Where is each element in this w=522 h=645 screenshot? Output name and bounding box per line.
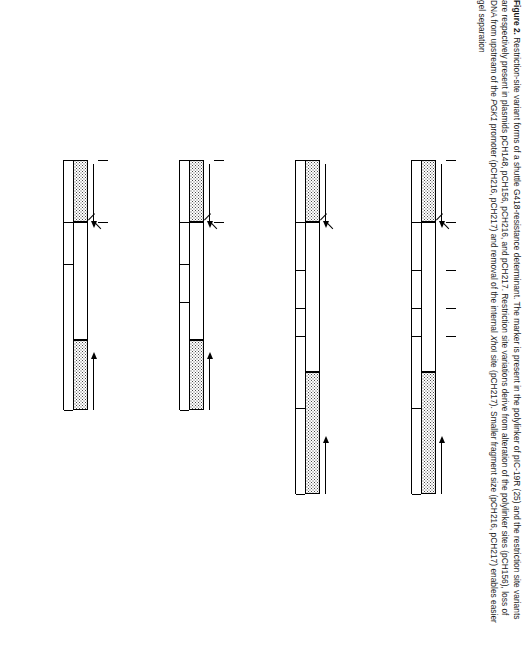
promoter-segment-bar <box>73 160 88 222</box>
restriction-site-tick <box>412 408 421 409</box>
segment-delimiter <box>446 270 456 271</box>
promoter-direction-arrow-right <box>441 442 442 494</box>
polylinker-site-label <box>339 82 347 156</box>
promoter-direction-arrow-right <box>325 442 326 494</box>
restriction-site-tick <box>412 308 421 309</box>
promoter-direction-arrow-left <box>325 164 326 222</box>
caption-run: Xho <box>489 335 499 350</box>
downstream-site-label <box>455 498 463 568</box>
polylinker-site-label <box>364 82 372 156</box>
polylinker-site-label <box>330 82 338 156</box>
map-baseline <box>411 160 412 494</box>
promoter-direction-arrow-right <box>209 358 210 410</box>
downstream-site-label <box>73 414 81 484</box>
polylinker-site-label <box>123 82 131 156</box>
downstream-site-list <box>421 498 463 568</box>
map-baseline <box>179 160 180 410</box>
caption-run: promoter (pCH216, pCH217) and removal of… <box>489 122 499 336</box>
downstream-site-label <box>107 414 115 484</box>
downstream-site-label <box>322 498 330 568</box>
map-baseline <box>63 160 64 410</box>
construct-row <box>254 0 350 645</box>
polylinker-site-label <box>73 82 81 156</box>
downstream-site-label <box>421 498 429 568</box>
polylinker-site-label <box>347 82 355 156</box>
downstream-promoter-bar <box>305 372 320 494</box>
polylinker-site-label <box>429 82 437 156</box>
polylinker-site-label <box>223 82 231 156</box>
polylinker-site-label <box>313 82 321 156</box>
caption-run: PGK1 <box>489 99 499 121</box>
restriction-site-tick <box>64 410 73 411</box>
gene-segment-bar <box>305 222 320 372</box>
downstream-site-label <box>223 414 231 484</box>
downstream-site-list <box>73 414 115 484</box>
polylinker-site-label <box>305 82 313 156</box>
polylinker-site-label <box>421 82 429 156</box>
restriction-site-tick <box>296 160 305 161</box>
segment-delimiter <box>446 336 456 337</box>
segment-delimiter <box>214 222 224 223</box>
promoter-direction-arrow-right <box>93 358 94 410</box>
gene-segment-bar <box>189 222 204 340</box>
segment-delimiter <box>446 222 456 223</box>
downstream-site-label <box>81 414 89 484</box>
downstream-site-label <box>446 498 454 568</box>
polylinker-site-label <box>81 82 89 156</box>
restriction-site-tick <box>412 160 421 161</box>
polylinker-site-label <box>438 82 446 156</box>
restriction-site-tick <box>64 264 73 265</box>
polylinker-site-label <box>455 82 463 156</box>
restriction-site-tick <box>412 336 421 337</box>
polylinker-site-list <box>305 82 389 156</box>
polylinker-site-label <box>446 82 454 156</box>
restriction-site-tick <box>296 270 305 271</box>
polylinker-site-label <box>189 82 197 156</box>
restriction-site-tick <box>180 160 189 161</box>
segment-delimiter <box>98 222 108 223</box>
restriction-site-tick <box>64 222 73 223</box>
polylinker-site-label <box>98 82 106 156</box>
restriction-site-tick <box>296 308 305 309</box>
polylinker-site-label <box>355 82 363 156</box>
restriction-site-tick <box>296 336 305 337</box>
polylinker-site-label <box>197 82 205 156</box>
restriction-site-tick <box>180 264 189 265</box>
polylinker-site-label <box>132 82 140 156</box>
polylinker-site-label <box>206 82 214 156</box>
polylinker-site-label <box>90 82 98 156</box>
polylinker-site-list <box>73 82 140 156</box>
promoter-segment-bar <box>189 160 204 222</box>
polylinker-site-label <box>214 82 222 156</box>
promoter-direction-arrow-left <box>441 164 442 222</box>
gene-segment-bar <box>73 222 88 340</box>
downstream-site-label <box>90 414 98 484</box>
promoter-direction-arrow-left <box>209 164 210 222</box>
downstream-promoter-bar <box>73 340 88 410</box>
restriction-site-tick <box>180 222 189 223</box>
downstream-site-label <box>197 414 205 484</box>
restriction-site-tick <box>64 160 73 161</box>
restriction-site-tick <box>180 302 189 303</box>
polylinker-site-label <box>107 82 115 156</box>
downstream-site-label <box>313 498 321 568</box>
restriction-site-tick <box>296 222 305 223</box>
promoter-direction-arrow-left <box>93 164 94 222</box>
downstream-promoter-bar <box>189 340 204 410</box>
construct-row <box>22 0 118 645</box>
construct-row <box>138 0 234 645</box>
downstream-site-label <box>98 414 106 484</box>
polylinker-site-label <box>248 82 256 156</box>
segment-delimiter <box>446 308 456 309</box>
downstream-site-label <box>189 414 197 484</box>
segment-delimiter <box>214 160 224 161</box>
polylinker-site-label <box>115 82 123 156</box>
downstream-site-label <box>438 498 446 568</box>
restriction-site-tick <box>412 222 421 223</box>
figure-caption-frame: Figure 2. Restriction-site variant forms… <box>466 0 522 645</box>
polylinker-site-label <box>231 82 239 156</box>
polylinker-site-label <box>372 82 380 156</box>
restriction-site-tick <box>412 494 421 495</box>
restriction-site-tick <box>296 494 305 495</box>
